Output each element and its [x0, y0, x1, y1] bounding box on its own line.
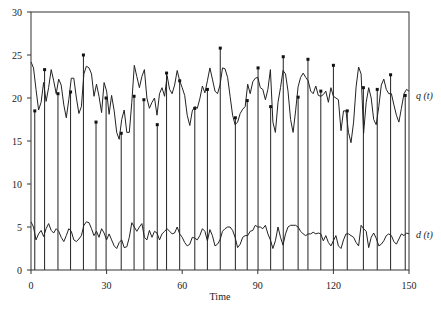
- pulse-marker: [156, 123, 159, 126]
- pulse-marker: [319, 90, 322, 93]
- y-tick-label: 30: [12, 7, 22, 18]
- pulse-marker: [43, 68, 46, 71]
- pulse-marker: [389, 73, 392, 76]
- pulse-marker: [133, 95, 136, 98]
- pulse-marker: [82, 54, 85, 57]
- pulse-marker: [219, 47, 222, 50]
- pulse-marker: [33, 109, 36, 112]
- pulse-marker: [332, 64, 335, 67]
- pulse-marker: [142, 98, 145, 101]
- series-label-q: q (t): [416, 90, 434, 102]
- x-tick-label: 60: [177, 280, 187, 291]
- x-tick-label: 150: [402, 280, 417, 291]
- pulse-marker: [362, 86, 365, 89]
- pulse-marker: [56, 92, 59, 95]
- y-axis: 051015202530: [12, 7, 31, 276]
- pulse-marker: [306, 58, 309, 61]
- x-tick-label: 30: [102, 280, 112, 291]
- x-tick-label: 90: [253, 280, 263, 291]
- pulse-marker: [234, 116, 237, 119]
- y-tick-label: 0: [17, 265, 22, 276]
- pulse-marker: [376, 88, 379, 91]
- pulse-marker: [95, 121, 98, 124]
- chart: 051015202530 0306090120150 Time q (t) d …: [0, 0, 441, 310]
- x-tick-label: 120: [326, 280, 341, 291]
- pulse-marker: [282, 55, 285, 58]
- pulse-stems: [33, 47, 406, 270]
- y-tick-label: 25: [12, 50, 22, 61]
- series-label-d: d (t): [416, 229, 434, 241]
- y-tick-label: 10: [12, 179, 22, 190]
- x-tick-label: 0: [29, 280, 34, 291]
- x-axis: 0306090120150: [29, 270, 417, 291]
- y-tick-label: 5: [17, 222, 22, 233]
- pulse-marker: [165, 72, 168, 75]
- pulse-marker: [206, 88, 209, 91]
- pulse-marker: [257, 66, 260, 69]
- x-axis-title: Time: [210, 291, 231, 302]
- y-tick-label: 15: [12, 136, 22, 147]
- y-tick-label: 20: [12, 93, 22, 104]
